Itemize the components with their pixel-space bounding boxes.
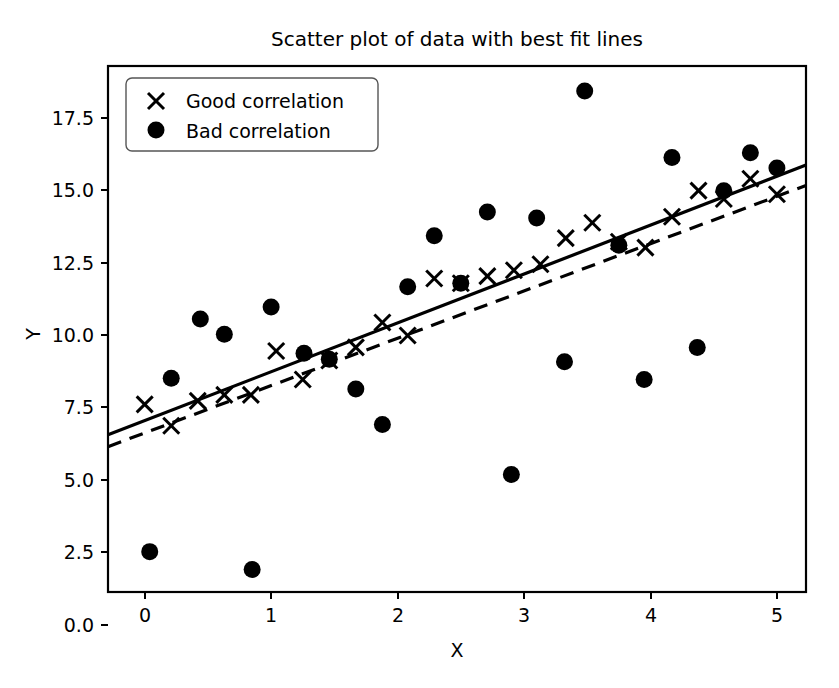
scatter-chart: Scatter plot of data with best fit lines… xyxy=(0,0,839,688)
y-tick-label: 15.0 xyxy=(52,179,94,201)
data-point-dot-marker xyxy=(663,149,680,166)
data-point-dot-marker xyxy=(528,209,545,226)
data-point-dot-marker xyxy=(742,144,759,161)
y-tick-label: 17.5 xyxy=(52,107,94,129)
data-point-x-marker xyxy=(637,240,653,256)
data-point-dot-marker xyxy=(576,82,593,99)
y-tick-label: 10.0 xyxy=(52,324,94,346)
series-bad-correlation xyxy=(141,82,785,578)
data-point-x-marker xyxy=(268,343,284,359)
data-point-dot-marker xyxy=(636,371,653,388)
legend-label-bad: Bad correlation xyxy=(186,120,331,142)
data-point-x-marker xyxy=(691,183,707,199)
x-tick-label: 3 xyxy=(518,604,530,626)
data-point-x-marker xyxy=(163,418,179,434)
y-axis-label: Y xyxy=(22,328,44,341)
data-point-dot-marker xyxy=(715,182,732,199)
y-tick-label: 2.5 xyxy=(64,541,94,563)
x-tick-label: 2 xyxy=(392,604,404,626)
x-tick-label: 1 xyxy=(265,604,277,626)
data-point-dot-marker xyxy=(610,237,627,254)
data-point-dot-marker xyxy=(479,204,496,221)
data-point-dot-marker xyxy=(141,543,158,560)
data-point-x-marker xyxy=(400,328,416,344)
data-point-x-marker xyxy=(479,268,495,284)
figure-canvas: Scatter plot of data with best fit lines… xyxy=(0,0,839,688)
x-tick-label: 4 xyxy=(645,604,657,626)
data-point-dot-marker xyxy=(321,351,338,368)
data-point-dot-marker xyxy=(452,275,469,292)
data-point-dot-marker xyxy=(689,339,706,356)
y-tick-label: 12.5 xyxy=(52,252,94,274)
data-point-dot-marker xyxy=(192,310,209,327)
data-point-dot-marker xyxy=(768,160,785,177)
data-point-dot-marker xyxy=(163,370,180,387)
x-axis-tick-labels: 0 1 2 3 4 5 xyxy=(139,604,783,626)
chart-title: Scatter plot of data with best fit lines xyxy=(271,27,643,51)
data-point-dot-marker xyxy=(503,466,520,483)
legend-label-good: Good correlation xyxy=(186,90,344,112)
y-tick-label: 5.0 xyxy=(64,469,94,491)
x-tick-label: 5 xyxy=(771,604,783,626)
data-point-x-marker xyxy=(137,396,153,412)
y-tick-label: 7.5 xyxy=(64,396,94,418)
data-point-x-marker xyxy=(558,230,574,246)
data-point-dot-marker xyxy=(399,278,416,295)
best-fit-line-dashed xyxy=(108,185,806,446)
data-point-dot-marker xyxy=(295,345,312,362)
dot-marker-icon xyxy=(148,122,165,139)
data-point-x-marker xyxy=(426,271,442,287)
data-point-dot-marker xyxy=(347,380,364,397)
x-axis-label: X xyxy=(450,639,463,661)
data-point-x-marker xyxy=(506,262,522,278)
data-point-x-marker xyxy=(664,209,680,225)
data-point-x-marker xyxy=(742,171,758,187)
y-tick-label: 0.0 xyxy=(64,614,94,636)
data-point-dot-marker xyxy=(556,353,573,370)
x-tick-label: 0 xyxy=(139,604,151,626)
y-axis-tick-labels: 17.5 15.0 12.5 10.0 7.5 5.0 2.5 0.0 xyxy=(52,107,94,636)
data-point-x-marker xyxy=(584,215,600,231)
data-point-dot-marker xyxy=(426,227,443,244)
best-fit-line-solid xyxy=(108,165,806,435)
plot-data-layer xyxy=(108,82,806,578)
data-point-dot-marker xyxy=(263,299,280,316)
data-point-dot-marker xyxy=(244,561,261,578)
data-point-dot-marker xyxy=(374,416,391,433)
data-point-dot-marker xyxy=(216,326,233,343)
legend: Good correlation Bad correlation xyxy=(126,78,378,151)
